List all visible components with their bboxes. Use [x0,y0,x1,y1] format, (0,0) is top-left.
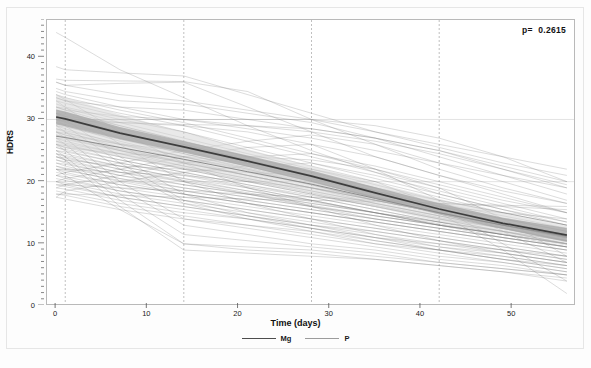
legend-line-icon [305,338,339,339]
legend-item-mg[interactable]: Mg [242,334,292,343]
chart-figure: p= 0.2615 010203040 HDRS 01020304050 Tim… [0,0,591,368]
x-tick-label: 40 [416,309,424,318]
y-tick-label: 0 [31,301,35,310]
plot-svg [47,20,575,305]
x-tick-label: 30 [325,309,333,318]
x-tick-label: 50 [507,309,515,318]
x-tick-marks [46,303,575,309]
x-tick-label: 0 [53,309,57,318]
x-tick-label: 10 [142,309,150,318]
plot-area: p= 0.2615 [46,19,575,305]
legend-item-p[interactable]: P [305,334,349,343]
y-tick-label: 30 [27,114,35,123]
legend-label: P [344,334,349,343]
legend-line-icon [242,338,276,339]
y-axis-title: HDRS [5,130,15,154]
y-tick-label: 20 [27,176,35,185]
y-axis: 010203040 [0,19,44,305]
p-value-annotation: p= 0.2615 [522,25,566,35]
x-tick-label: 20 [233,309,241,318]
chart-legend: MgP [0,334,591,343]
y-tick-marks [0,19,44,305]
legend-label: Mg [281,334,292,343]
y-tick-label: 40 [27,52,35,61]
y-tick-label: 10 [27,238,35,247]
x-axis-title: Time (days) [0,318,591,328]
